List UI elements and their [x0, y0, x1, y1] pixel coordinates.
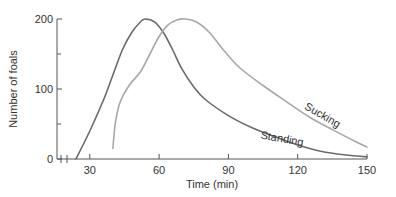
x-tick-label: 60 — [153, 164, 165, 176]
x-tick-label: 120 — [289, 164, 307, 176]
x-tick-label: 30 — [84, 164, 96, 176]
series-label-standing: Standing — [260, 129, 305, 148]
series-line-sucking — [113, 19, 367, 149]
series-line-standing — [76, 19, 367, 159]
y-tick-label: 0 — [47, 153, 53, 165]
series-group: StandingSucking — [76, 19, 367, 159]
y-axis-label: Number of foals — [7, 50, 19, 128]
x-tick-label: 150 — [358, 164, 376, 176]
y-tick-label: 200 — [35, 13, 53, 25]
x-axis-label: Time (min) — [186, 178, 238, 190]
x-tick-label: 90 — [222, 164, 234, 176]
y-tick-label: 100 — [35, 83, 53, 95]
line-chart: 0100200306090120150 StandingSucking Numb… — [0, 0, 396, 197]
